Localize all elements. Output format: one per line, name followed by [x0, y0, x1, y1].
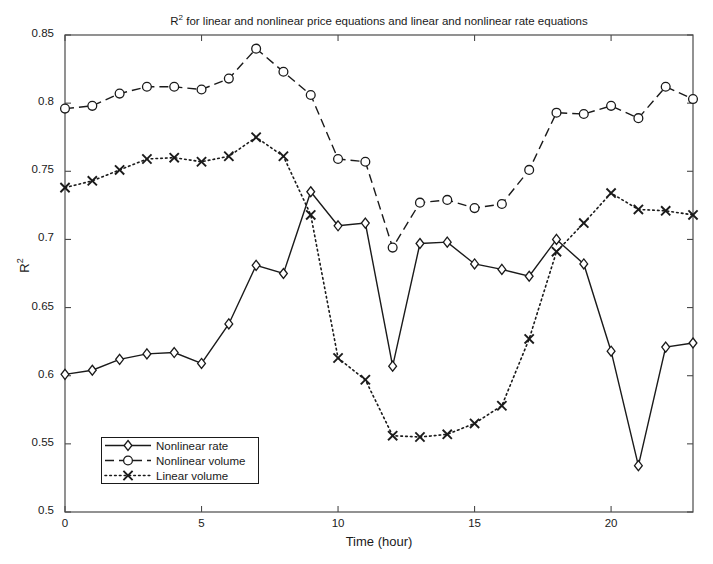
data-point-marker-circle: [361, 157, 370, 166]
data-point-marker-circle: [470, 204, 479, 213]
data-point-marker-diamond: [634, 461, 642, 471]
chart-legend: Nonlinear rateNonlinear volumeLinear vol…: [101, 437, 259, 484]
data-point-marker-circle: [334, 155, 343, 164]
data-point-marker-diamond: [170, 348, 178, 358]
legend-item-nonlinear-volume[interactable]: Nonlinear volume: [102, 453, 258, 468]
data-point-marker-circle: [579, 110, 588, 119]
data-point-marker-circle: [279, 67, 288, 76]
series-line: [65, 49, 693, 248]
data-point-marker-circle: [197, 85, 206, 94]
data-point-marker-circle: [124, 456, 133, 465]
data-point-marker-circle: [689, 95, 698, 104]
data-point-marker-circle: [170, 82, 179, 91]
data-point-marker-diamond: [280, 269, 288, 279]
data-point-marker-circle: [607, 101, 616, 110]
data-point-marker-diamond: [607, 346, 615, 356]
data-point-marker-circle: [497, 200, 506, 209]
data-point-marker-circle: [252, 44, 261, 53]
data-point-marker-circle: [115, 89, 124, 98]
data-point-marker-diamond: [662, 342, 670, 352]
series-nonlinear-rate: [61, 187, 697, 471]
data-point-marker-circle: [634, 114, 643, 123]
series-line: [65, 137, 693, 437]
data-point-marker-circle: [443, 196, 452, 205]
data-point-marker-circle: [224, 74, 233, 83]
data-point-marker-circle: [525, 166, 534, 175]
data-point-marker-diamond: [124, 441, 132, 451]
data-point-marker-circle: [61, 104, 70, 113]
data-point-marker-diamond: [443, 237, 451, 247]
data-point-marker-diamond: [143, 349, 151, 359]
series-linear-volume: [60, 133, 697, 442]
data-point-marker-diamond: [689, 338, 697, 348]
data-point-marker-diamond: [416, 239, 424, 249]
legend-label: Linear volume: [154, 470, 228, 482]
legend-sample-diamond-icon: [102, 438, 154, 453]
legend-sample-circle-icon: [102, 453, 154, 468]
legend-label: Nonlinear rate: [154, 440, 228, 452]
data-point-marker-circle: [306, 91, 315, 100]
data-point-marker-circle: [143, 82, 152, 91]
data-point-marker-diamond: [61, 369, 69, 379]
data-point-marker-circle: [661, 82, 670, 91]
legend-item-linear-volume[interactable]: Linear volume: [102, 468, 258, 483]
series-nonlinear-volume: [61, 44, 698, 252]
data-point-marker-diamond: [471, 259, 479, 269]
data-point-marker-circle: [388, 243, 397, 252]
data-point-marker-diamond: [116, 354, 124, 364]
legend-label: Nonlinear volume: [154, 455, 246, 467]
legend-item-nonlinear-rate[interactable]: Nonlinear rate: [102, 438, 258, 453]
data-point-marker-diamond: [88, 365, 96, 375]
data-point-marker-diamond: [252, 260, 260, 270]
data-point-marker-diamond: [498, 264, 506, 274]
legend-sample-x-icon: [102, 468, 154, 483]
series-line: [65, 192, 693, 466]
data-point-marker-circle: [552, 108, 561, 117]
chart-figure: R2 for linear and nonlinear price equati…: [0, 0, 713, 564]
data-point-marker-diamond: [580, 259, 588, 269]
data-point-marker-circle: [416, 198, 425, 207]
data-point-marker-diamond: [361, 218, 369, 228]
data-point-marker-circle: [88, 101, 97, 110]
data-point-marker-diamond: [389, 361, 397, 371]
